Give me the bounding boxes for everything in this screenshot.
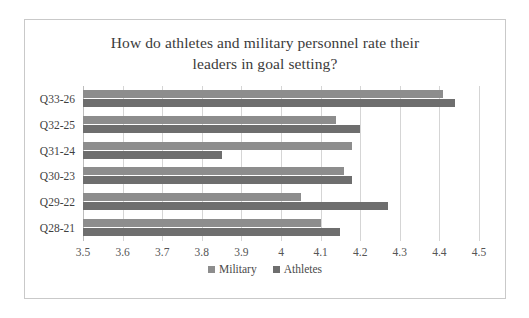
gridline-3.8 bbox=[202, 86, 203, 241]
chart-title-line-1: How do athletes and military personnel r… bbox=[65, 32, 465, 53]
legend-item-military: Military bbox=[208, 263, 257, 275]
gridline-4.5 bbox=[479, 86, 480, 241]
gridline-4.1 bbox=[321, 86, 322, 241]
bar-athletes-Q32-25 bbox=[83, 125, 360, 133]
bar-military-Q30-23 bbox=[83, 167, 344, 175]
x-axis-tick-label: 4.2 bbox=[353, 246, 367, 258]
bar-military-Q32-25 bbox=[83, 116, 336, 124]
chart-container: How do athletes and military personnel r… bbox=[24, 19, 506, 299]
bar-military-Q29-22 bbox=[83, 193, 301, 201]
y-axis-category-label: Q30-23 bbox=[40, 170, 75, 182]
gridline-3.9 bbox=[241, 86, 242, 241]
plot-area: 3.53.63.73.83.944.14.24.34.44.5Q33-26Q32… bbox=[83, 86, 479, 241]
bar-military-Q33-26 bbox=[83, 90, 443, 98]
x-axis-tick-label: 3.9 bbox=[234, 246, 248, 258]
gridline-4 bbox=[281, 86, 282, 241]
gridline-3.6 bbox=[123, 86, 124, 241]
x-axis-tick-label: 4.5 bbox=[472, 246, 486, 258]
legend-label-military: Military bbox=[219, 263, 257, 275]
x-axis-tick-label: 4 bbox=[278, 246, 284, 258]
bar-military-Q28-21 bbox=[83, 219, 321, 227]
x-axis-tick-label: 3.6 bbox=[115, 246, 129, 258]
x-axis-tick-label: 4.4 bbox=[432, 246, 446, 258]
bar-athletes-Q29-22 bbox=[83, 202, 388, 210]
chart-legend: Military Athletes bbox=[25, 263, 505, 275]
x-axis-tick-label: 3.5 bbox=[76, 246, 90, 258]
chart-title-line-2: leaders in goal setting? bbox=[65, 53, 465, 74]
bar-athletes-Q28-21 bbox=[83, 228, 340, 236]
legend-swatch-military-icon bbox=[208, 266, 215, 273]
gridline-3.5 bbox=[83, 86, 84, 241]
x-axis-tick-label: 4.3 bbox=[393, 246, 407, 258]
y-axis-category-label: Q28-21 bbox=[40, 222, 75, 234]
x-axis-tick-label: 3.8 bbox=[195, 246, 209, 258]
y-axis-category-label: Q29-22 bbox=[40, 196, 75, 208]
gridline-4.4 bbox=[439, 86, 440, 241]
legend-swatch-athletes-icon bbox=[273, 266, 280, 273]
y-axis-category-label: Q33-26 bbox=[40, 93, 75, 105]
y-axis-category-label: Q31-24 bbox=[40, 145, 75, 157]
bar-military-Q31-24 bbox=[83, 142, 352, 150]
x-axis-tick-label: 3.7 bbox=[155, 246, 169, 258]
chart-title: How do athletes and military personnel r… bbox=[65, 32, 465, 74]
y-axis-category-label: Q32-25 bbox=[40, 119, 75, 131]
x-axis-tick-label: 4.1 bbox=[313, 246, 327, 258]
legend-item-athletes: Athletes bbox=[273, 263, 322, 275]
bar-athletes-Q31-24 bbox=[83, 151, 222, 159]
gridline-3.7 bbox=[162, 86, 163, 241]
bar-athletes-Q33-26 bbox=[83, 99, 455, 107]
gridline-4.2 bbox=[360, 86, 361, 241]
bar-athletes-Q30-23 bbox=[83, 176, 352, 184]
gridline-4.3 bbox=[400, 86, 401, 241]
legend-label-athletes: Athletes bbox=[284, 263, 322, 275]
